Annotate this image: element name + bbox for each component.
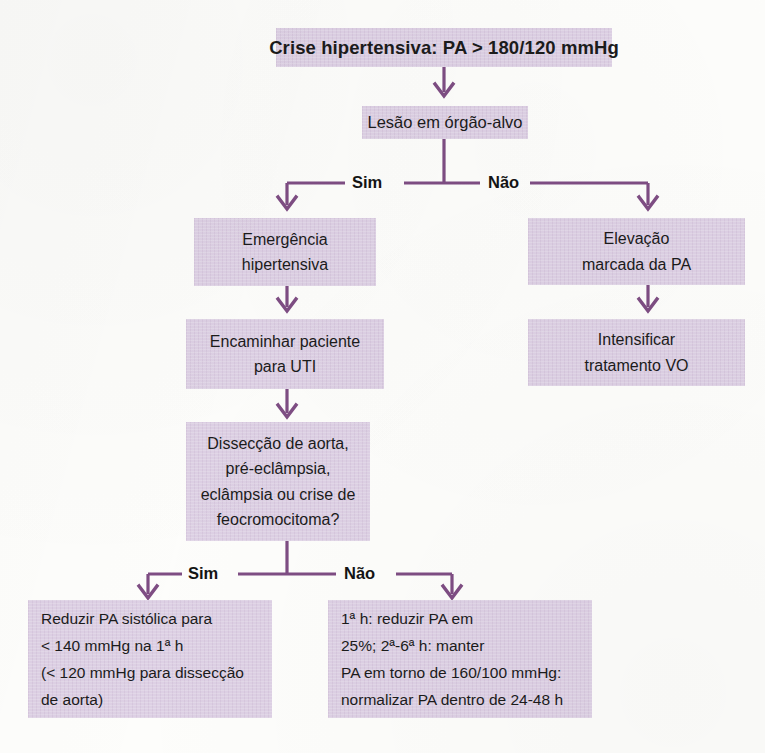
- node-encaminhar-uti: Encaminhar paciente para UTI: [186, 319, 384, 389]
- emergency-line-1: Emergência: [242, 227, 327, 253]
- outcome-left-line-4: de aorta): [41, 686, 103, 713]
- node-lesao-orgao-alvo: Lesão em órgão-alvo: [362, 106, 528, 139]
- outcome-left-line-1: Reduzir PA sistólica para: [41, 605, 212, 632]
- branch-label-top-nao: Não: [488, 173, 519, 192]
- intensify-line-1: Intensificar: [598, 327, 675, 353]
- node-decisao-dissesccao-eclampsia: Dissecção de aorta, pré-eclâmpsia, eclâm…: [186, 422, 370, 541]
- outcome-right-line-1: 1ª h: reduzir PA em: [341, 605, 473, 632]
- branch-label-top-sim: Sim: [352, 173, 382, 192]
- decision-line-2: pré-eclâmpsia,: [226, 456, 331, 482]
- outcome-left-line-2: < 140 mmHg na 1ª h: [41, 632, 183, 659]
- outcome-right-line-4: normalizar PA dentro de 24-48 h: [341, 686, 563, 713]
- outcome-right-line-2: 25%; 2ª-6ª h: manter: [341, 632, 484, 659]
- decision-line-4: feocromocitoma?: [217, 507, 340, 533]
- node-emergencia-hipertensiva: Emergência hipertensiva: [194, 218, 376, 286]
- outcome-left-line-3: (< 120 mmHg para dissecção: [41, 659, 244, 686]
- decision-line-3: eclâmpsia ou crise de: [201, 482, 356, 508]
- node-outcome-reduzir-pa-25-porcento: 1ª h: reduzir PA em 25%; 2ª-6ª h: manter…: [328, 600, 592, 718]
- emergency-line-2: hipertensiva: [242, 252, 328, 278]
- flowchart-page: Crise hipertensiva: PA > 180/120 mmHg Le…: [0, 0, 765, 753]
- elevation-line-2: marcada da PA: [582, 252, 691, 278]
- elevation-line-1: Elevação: [604, 226, 670, 252]
- branch-label-bottom-sim: Sim: [188, 564, 218, 583]
- icu-line-1: Encaminhar paciente: [210, 329, 360, 355]
- outcome-right-line-3: PA em torno de 160/100 mmHg:: [341, 659, 561, 686]
- intensify-line-2: tratamento VO: [584, 353, 688, 379]
- title-text: Crise hipertensiva: PA > 180/120 mmHg: [269, 37, 619, 59]
- branch-label-bottom-nao: Não: [344, 564, 375, 583]
- decision-line-1: Dissecção de aorta,: [207, 431, 348, 457]
- node-elevacao-marcada-pa: Elevação marcada da PA: [528, 218, 745, 285]
- icu-line-2: para UTI: [254, 354, 316, 380]
- node-intensificar-tratamento-vo: Intensificar tratamento VO: [528, 319, 745, 386]
- assessment-text: Lesão em órgão-alvo: [367, 110, 522, 135]
- node-crise-hipertensiva: Crise hipertensiva: PA > 180/120 mmHg: [276, 28, 612, 67]
- node-outcome-reduzir-pa-sistolica: Reduzir PA sistólica para < 140 mmHg na …: [28, 600, 272, 718]
